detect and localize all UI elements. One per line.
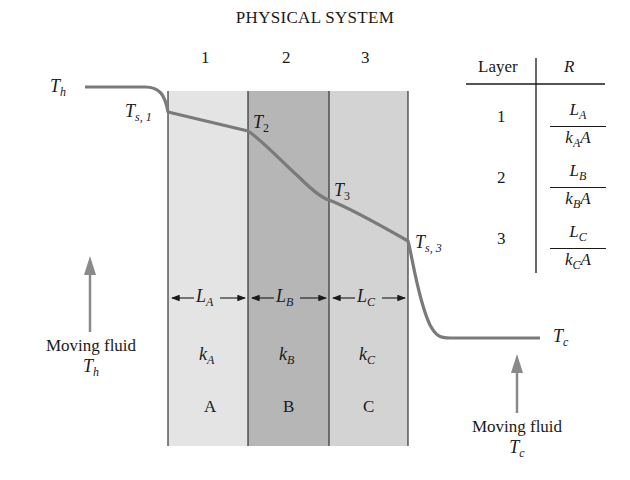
table-row-2-resistance: LB kBA xyxy=(550,161,606,215)
cold-fluid-arrow-icon xyxy=(511,354,523,413)
table-row-3-layer: 3 xyxy=(497,229,506,249)
table-row-3-resistance: LC kCA xyxy=(550,222,606,276)
hot-fluid-arrow-icon xyxy=(84,256,96,332)
temp-label-t3: T3 xyxy=(334,180,350,204)
temp-label-surface-3: Ts, 3 xyxy=(415,232,442,256)
temp-label-hot: Th xyxy=(50,76,66,100)
layer-a-slab xyxy=(168,91,248,446)
temp-label-cold: Tc xyxy=(553,326,568,350)
material-label-a: A xyxy=(204,397,216,417)
layer-c-slab xyxy=(329,91,408,446)
layer-b-slab xyxy=(248,91,329,446)
conductivity-label-b: kB xyxy=(279,344,294,368)
table-header-r: R xyxy=(564,57,574,77)
thickness-label-a: LA xyxy=(196,286,213,310)
table-header-layer: Layer xyxy=(478,57,518,77)
temp-label-surface-1: Ts, 1 xyxy=(125,101,152,125)
table-row-1-layer: 1 xyxy=(497,107,506,127)
thickness-label-c: LC xyxy=(357,286,375,310)
conductivity-label-a: kA xyxy=(199,344,214,368)
layer-number-2: 2 xyxy=(282,48,291,68)
layer-number-3: 3 xyxy=(361,48,370,68)
table-row-1-resistance: LA kAA xyxy=(550,100,606,154)
diagram-canvas xyxy=(0,0,630,480)
diagram-title: PHYSICAL SYSTEM xyxy=(0,8,630,28)
thickness-label-b: LB xyxy=(276,286,293,310)
cold-fluid-label: Moving fluid Tc xyxy=(456,417,578,461)
hot-fluid-label: Moving fluid Th xyxy=(30,336,152,380)
material-label-b: B xyxy=(283,397,294,417)
temp-label-t2: T2 xyxy=(253,112,269,136)
table-row-2-layer: 2 xyxy=(497,168,506,188)
material-label-c: C xyxy=(363,397,374,417)
layer-number-1: 1 xyxy=(201,48,210,68)
conductivity-label-c: kC xyxy=(359,344,375,368)
